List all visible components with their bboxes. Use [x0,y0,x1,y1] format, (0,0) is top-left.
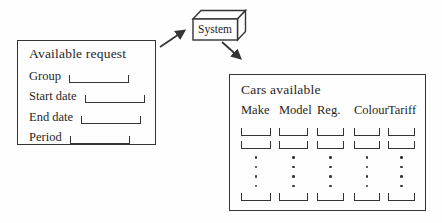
ellipsis-dots [241,156,271,187]
arrow-request-to-system [160,31,185,48]
table-cell-bracket [354,128,380,136]
column-header-tariff: Tariff [388,103,415,117]
ellipsis-dots [354,156,380,187]
table-cell-bracket [279,193,308,201]
table-cell-bracket [241,128,271,136]
system-node-label: System [193,19,237,40]
table-cell-bracket [279,141,308,149]
group-input-bracket [69,75,129,83]
table-cell-bracket [388,128,415,136]
period-field-label: Period [29,131,62,144]
field-row-period: Period [29,131,149,144]
cars-available-panel: Cars available Make Model Reg. [229,74,426,211]
field-row-group: Group [29,70,149,83]
table-cell-bracket [317,141,344,149]
table-cell-bracket [354,193,380,201]
table-column-make: Make [241,103,271,201]
table-cell-bracket [354,141,380,149]
column-header-colour: Colour [354,103,380,117]
field-row-end-date: End date [29,111,149,124]
table-column-model: Model [279,103,308,201]
table-column-colour: Colour [354,103,380,201]
group-field-label: Group [29,70,61,83]
column-header-make: Make [241,103,271,117]
table-cell-bracket [317,128,344,136]
field-row-start-date: Start date [29,90,149,103]
table-cell-bracket [241,141,271,149]
request-panel-title: Available request [29,46,149,62]
diagram-canvas: System Available request Group Start dat… [0,0,442,223]
ellipsis-dots [388,156,415,187]
table-cell-bracket [388,193,415,201]
table-cell-bracket [388,141,415,149]
table-column-tariff: Tariff [388,103,415,201]
table-cell-bracket [279,128,308,136]
table-column-reg: Reg. [317,103,344,201]
arrow-system-to-results [222,42,241,59]
ellipsis-dots [317,156,344,187]
column-header-reg: Reg. [317,103,344,117]
ellipsis-dots [279,156,308,187]
cars-panel-title: Cars available [241,82,321,98]
period-input-bracket [70,136,130,144]
start-date-field-label: Start date [29,90,77,103]
column-header-model: Model [279,103,308,117]
end-date-input-bracket [81,116,141,124]
available-request-panel: Available request Group Start date End d… [17,40,156,145]
table-cell-bracket [241,193,271,201]
end-date-field-label: End date [29,111,73,124]
start-date-input-bracket [85,95,145,103]
table-cell-bracket [317,193,344,201]
